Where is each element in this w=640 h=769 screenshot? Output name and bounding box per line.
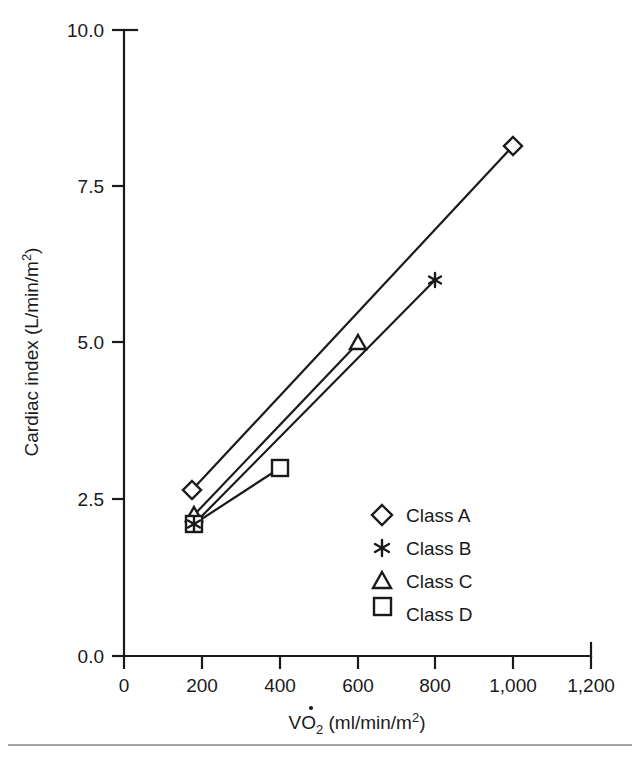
x-axis-title: VO2 (ml/min/m2)	[289, 706, 426, 737]
legend-label-class-b: Class B	[406, 538, 471, 559]
y-axis-title-main: Cardiac index (L/min/m	[21, 261, 42, 456]
series-lines	[192, 146, 513, 524]
x-axis-title-units-open: (ml/min/m	[323, 712, 412, 733]
x-axis-title-subscript-letter: O	[301, 712, 316, 733]
y-tick-label-7-5: 7.5	[78, 176, 104, 197]
legend-marker-triangle-icon	[373, 572, 391, 588]
x-axis-title-subscript: 2	[316, 722, 323, 737]
y-tick-label-2-5: 2.5	[78, 489, 104, 510]
legend-label-class-a: Class A	[406, 505, 471, 526]
x-tick-label-1000: 1,000	[489, 675, 537, 696]
y-tick-label-5-0: 5.0	[78, 332, 104, 353]
data-point-class-c-high	[350, 335, 366, 349]
y-axis-title-sup: 2	[19, 254, 34, 261]
v-dot-overdot-icon	[309, 706, 313, 710]
y-axis-tick-labels: 10.0 7.5 5.0 2.5 0.0	[67, 20, 104, 667]
svg-text:VO2 (ml/min/m2): VO2 (ml/min/m2)	[289, 710, 426, 737]
series-line-class-d	[194, 468, 280, 524]
y-tick-label-10: 10.0	[67, 20, 104, 41]
legend-marker-star-icon	[375, 540, 389, 556]
series-line-class-b	[194, 280, 435, 524]
y-axis-ticks	[112, 30, 124, 656]
x-axis-title-units-sup: 2	[412, 710, 419, 725]
x-axis-title-symbol: V	[289, 712, 302, 733]
x-tick-label-1200: 1,200	[567, 675, 615, 696]
legend-label-class-d: Class D	[406, 604, 473, 625]
y-axis-title: Cardiac index (L/min/m2)	[19, 248, 42, 457]
x-tick-label-0: 0	[119, 675, 130, 696]
x-tick-label-400: 400	[264, 675, 296, 696]
x-axis-ticks	[124, 656, 591, 669]
x-tick-label-800: 800	[419, 675, 451, 696]
legend-marker-diamond-icon	[372, 505, 392, 525]
x-axis-tick-labels: 0 200 400 600 800 1,000 1,200	[119, 675, 615, 696]
x-tick-label-600: 600	[342, 675, 374, 696]
x-tick-label-200: 200	[186, 675, 218, 696]
x-axis-title-units-close: )	[419, 712, 425, 733]
figure-container: 10.0 7.5 5.0 2.5 0.0 0 200 400 600 800 1…	[0, 0, 640, 769]
series-line-class-c	[194, 343, 358, 515]
chart-legend: Class A Class B Class C Class D	[372, 505, 473, 625]
cardiac-index-vo2-line-chart: 10.0 7.5 5.0 2.5 0.0 0 200 400 600 800 1…	[0, 0, 640, 769]
y-axis-title-close: )	[21, 248, 42, 254]
legend-label-class-c: Class C	[406, 571, 473, 592]
svg-text:Cardiac index (L/min/m2): Cardiac index (L/min/m2)	[19, 248, 42, 457]
data-point-class-d-high	[272, 460, 288, 476]
legend-marker-square-icon	[374, 598, 391, 615]
series-line-class-a	[192, 146, 513, 490]
y-tick-label-0-0: 0.0	[78, 646, 104, 667]
